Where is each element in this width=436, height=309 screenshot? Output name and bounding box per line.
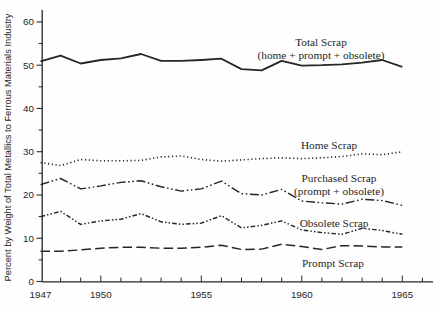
label-prompt-scrap: Prompt Scrap bbox=[302, 257, 364, 269]
scrap-percentage-chart: Percent by Weight of Total Metallics to … bbox=[0, 0, 436, 309]
plot-area: Percent by Weight of Total Metallics to … bbox=[0, 0, 436, 309]
label-obsolete-scrap: Obsolete Scrap bbox=[300, 217, 369, 229]
label-home-scrap: Home Scrap bbox=[301, 139, 358, 151]
y-tick-label: 40 bbox=[23, 103, 34, 114]
y-tick-label: 50 bbox=[23, 60, 34, 71]
x-tick-label: 1965 bbox=[391, 289, 413, 300]
label-purchased-scrap: Purchased Scrap bbox=[302, 172, 377, 184]
label-total-scrap-sub: (home + prompt + obsolete) bbox=[258, 49, 385, 62]
y-tick-label: 0 bbox=[29, 276, 35, 287]
y-tick-label: 30 bbox=[23, 146, 34, 157]
y-tick-label: 60 bbox=[23, 16, 34, 27]
x-tick-label: 1960 bbox=[291, 289, 313, 300]
y-tick-label: 20 bbox=[23, 189, 34, 200]
label-purchased-scrap-sub: (prompt + obsolete) bbox=[294, 185, 384, 198]
home-scrap-line bbox=[41, 152, 403, 166]
y-axis-title: Percent by Weight of Total Metallics to … bbox=[3, 13, 13, 281]
x-tick-label: 1947 bbox=[30, 289, 52, 300]
label-total-scrap: Total Scrap bbox=[295, 36, 347, 48]
x-tick-label: 1955 bbox=[190, 289, 212, 300]
plot-dynamic-content: 010203040506019471950195519601965Total S… bbox=[23, 10, 433, 300]
y-tick-label: 10 bbox=[23, 233, 34, 244]
x-tick-label: 1950 bbox=[90, 289, 112, 300]
prompt-scrap-line bbox=[41, 244, 403, 251]
